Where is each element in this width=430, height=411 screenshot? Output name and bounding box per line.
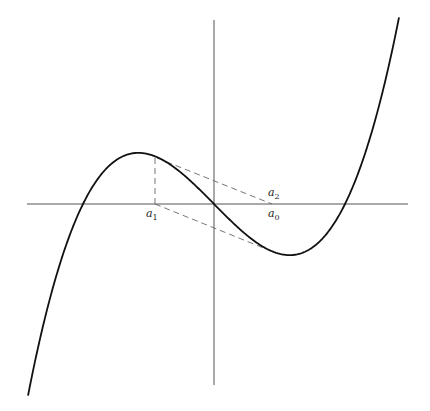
label-a2: a2 — [268, 186, 280, 201]
cubic-graph — [0, 0, 430, 411]
label-a0: a0 — [268, 207, 280, 222]
diagram: a1 a0 a2 — [0, 0, 430, 411]
label-a1: a1 — [146, 207, 158, 222]
